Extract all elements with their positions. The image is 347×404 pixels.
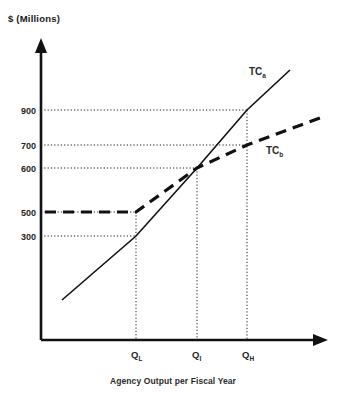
y-axis-arrow-icon xyxy=(35,38,47,53)
vertical-guides-group xyxy=(136,110,247,340)
x-tick-label-q-high-subscript: H xyxy=(249,355,254,362)
curve-label-tc-b-group: TCb xyxy=(266,145,283,158)
x-tick-label-q-low-base: Q xyxy=(131,349,138,360)
x-tick-label-q-intermediate: QI xyxy=(192,349,201,362)
y-tick-labels-group: 900 700 600 500 300 xyxy=(21,106,36,242)
x-axis-title: Agency Output per Fiscal Year xyxy=(110,376,237,386)
chart-canvas: $ (Millions) 900 700 600 500 xyxy=(0,0,347,404)
curve-label-tc-a-base: TC xyxy=(249,66,262,77)
y-tick-label-700: 700 xyxy=(21,141,36,151)
y-tick-label-600: 600 xyxy=(21,164,36,174)
curve-label-tc-b-subscript: b xyxy=(279,151,283,158)
x-tick-labels-group: QL QI QH xyxy=(131,349,254,362)
curve-label-tc-a-subscript: a xyxy=(262,72,266,79)
x-axis-arrow-icon xyxy=(313,334,328,346)
curve-label-tc-b-base: TC xyxy=(266,145,279,156)
axes-group xyxy=(35,38,328,346)
horizontal-guides-group xyxy=(41,110,247,236)
curve-tc-b xyxy=(45,116,325,212)
x-tick-label-q-low-subscript: L xyxy=(138,355,142,362)
y-tick-label-500: 500 xyxy=(21,208,36,218)
x-tick-label-q-low: QL xyxy=(131,349,142,362)
curve-label-tc-a: TCa xyxy=(249,66,266,79)
x-tick-label-q-high-base: Q xyxy=(242,349,249,360)
x-tick-label-q-intermediate-subscript: I xyxy=(199,355,201,362)
curve-tc-a xyxy=(62,70,290,300)
y-axis-title: $ (Millions) xyxy=(8,13,60,24)
x-tick-label-q-high: QH xyxy=(242,349,254,362)
x-tick-label-q-intermediate-base: Q xyxy=(192,349,199,360)
curve-label-tc-b: TCb xyxy=(266,145,283,158)
y-tick-label-900: 900 xyxy=(21,106,36,116)
cost-curve-chart: $ (Millions) 900 700 600 500 xyxy=(0,0,347,404)
curve-label-tc-a-group: TCa xyxy=(249,66,266,79)
y-tick-label-300: 300 xyxy=(21,232,36,242)
